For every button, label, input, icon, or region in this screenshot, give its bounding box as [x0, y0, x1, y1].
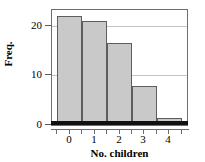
x-tick-label: 2 [107, 134, 131, 145]
x-tick-label: 1 [82, 134, 106, 145]
bar-series [52, 10, 187, 125]
x-axis-tick-labels: 01234 [51, 134, 188, 148]
histogram-figure: Freq. 0 10 20 01234 No. children [0, 0, 205, 162]
x-tick-label: 0 [57, 134, 81, 145]
y-axis-title: Freq. [2, 24, 14, 84]
x-axis-title: No. children [51, 147, 188, 159]
plot-area [51, 9, 188, 126]
bar [132, 86, 157, 125]
y-tick-label: 10 [24, 69, 42, 80]
axis-baseline [51, 121, 188, 125]
bar [82, 21, 107, 125]
y-tick-label: 0 [24, 119, 42, 130]
x-tick-label: 4 [156, 134, 180, 145]
y-axis-tick-labels: 0 10 20 [22, 0, 42, 162]
bar [57, 16, 82, 125]
gridline [52, 125, 187, 126]
y-tick-label: 20 [24, 20, 42, 31]
x-tick-label: 3 [131, 134, 155, 145]
bar [107, 43, 132, 125]
